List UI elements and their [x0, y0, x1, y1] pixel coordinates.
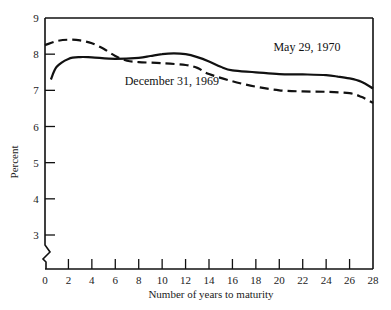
- x-tick-label: 0: [42, 274, 48, 286]
- x-tick-label: 6: [113, 274, 119, 286]
- x-tick-label: 18: [250, 274, 262, 286]
- y-tick-label: 6: [33, 121, 39, 133]
- x-tick-label: 24: [321, 274, 333, 286]
- series-label-dec-31-1969: December 31, 1969: [125, 74, 219, 88]
- y-tick-label: 3: [33, 229, 39, 241]
- x-axis-ticks: 0246810121416182022242628: [42, 259, 379, 286]
- x-tick-label: 20: [274, 274, 286, 286]
- x-tick-label: 28: [368, 274, 380, 286]
- series-label-may-29-1970: May 29, 1970: [273, 40, 340, 54]
- x-tick-label: 12: [180, 274, 191, 286]
- plot-frame: [43, 18, 373, 269]
- y-tick-label: 9: [33, 12, 39, 24]
- x-tick-label: 22: [297, 274, 308, 286]
- x-tick-label: 26: [344, 274, 356, 286]
- y-tick-label: 4: [33, 193, 39, 205]
- x-tick-label: 10: [157, 274, 169, 286]
- y-tick-label: 8: [33, 48, 39, 60]
- y-axis-line-with-break: [43, 18, 50, 269]
- yield-curve-chart: 3456789 0246810121416182022242628 May 29…: [0, 0, 391, 310]
- x-tick-label: 2: [66, 274, 72, 286]
- x-tick-label: 16: [227, 274, 239, 286]
- x-tick-label: 14: [204, 274, 216, 286]
- x-axis-label: Number of years to maturity: [148, 288, 274, 300]
- y-axis-ticks: 3456789: [33, 12, 55, 241]
- y-axis-label: Percent: [8, 146, 20, 179]
- y-tick-label: 7: [33, 84, 39, 96]
- x-tick-label: 4: [89, 274, 95, 286]
- x-tick-label: 8: [136, 274, 142, 286]
- y-tick-label: 5: [33, 157, 39, 169]
